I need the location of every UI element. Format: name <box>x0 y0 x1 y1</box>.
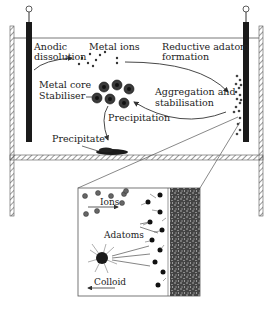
anode <box>26 6 32 142</box>
inset-label-colloid: Colloid <box>94 277 126 287</box>
cathode <box>243 6 249 142</box>
label-aggregation-2: stabilisation <box>155 98 214 108</box>
inset-label-ions: Ions <box>100 197 119 207</box>
label-metal-core: Metal core <box>39 80 91 90</box>
label-reductive-2: formation <box>162 52 209 62</box>
inset-label-adatoms: Adatoms <box>104 230 144 240</box>
label-aggregation-1: Aggregation and <box>155 87 236 97</box>
electrode-surface <box>170 188 200 296</box>
label-stabiliser: Stabiliser <box>39 91 85 101</box>
cathode-terminal-icon <box>243 6 249 12</box>
label-metal-ions: Metal ions <box>89 42 140 52</box>
precipitate-pile <box>96 148 128 156</box>
label-anodic-dissolution-2: dissolution <box>34 52 86 62</box>
label-precipitate: Precipitate <box>52 134 105 144</box>
precipitate-pointer <box>82 146 98 151</box>
label-precipitation: Precipitation <box>108 113 170 123</box>
anode-terminal-icon <box>26 6 32 12</box>
metal-core-clusters <box>92 80 134 108</box>
